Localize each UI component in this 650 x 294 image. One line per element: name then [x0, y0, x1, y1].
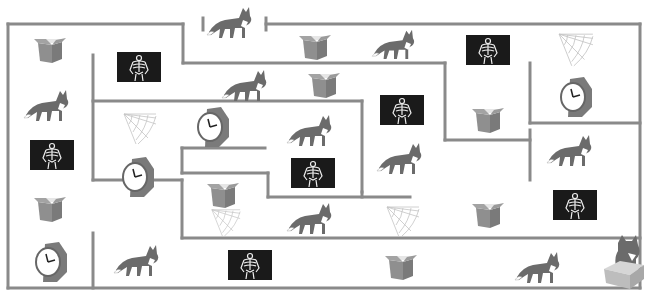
- clock-icon: [120, 155, 156, 199]
- clock-icon: [558, 75, 594, 119]
- xray-icon: [291, 158, 335, 188]
- box-icon: [470, 103, 506, 135]
- xray-icon: [553, 190, 597, 220]
- box-icon: [297, 30, 333, 62]
- box-icon: [383, 250, 419, 282]
- fox-icon: [513, 247, 563, 285]
- web-icon: [208, 208, 244, 238]
- xray-icon: [30, 140, 74, 170]
- box-icon: [32, 192, 68, 224]
- fox-icon: [22, 85, 72, 123]
- fox-icon: [545, 130, 595, 168]
- box-icon: [205, 178, 241, 210]
- fox-icon: [285, 198, 335, 236]
- xray-icon: [117, 52, 161, 82]
- fox-icon: [375, 138, 425, 176]
- goal-fox-in-box-icon: [600, 233, 648, 291]
- xray-icon: [228, 250, 272, 280]
- fox-entrance-icon: [205, 2, 255, 40]
- xray-icon: [466, 35, 510, 65]
- fox-icon: [370, 25, 418, 61]
- box-icon: [32, 33, 68, 65]
- fox-icon: [220, 65, 270, 103]
- xray-icon: [380, 95, 424, 125]
- fox-icon: [285, 110, 335, 148]
- fox-icon: [112, 240, 162, 278]
- web-icon: [557, 32, 595, 68]
- clock-icon: [33, 240, 69, 284]
- web-icon: [122, 112, 158, 146]
- web-icon: [385, 205, 421, 239]
- box-icon: [470, 198, 506, 230]
- box-icon: [306, 68, 342, 100]
- clock-icon: [195, 105, 231, 149]
